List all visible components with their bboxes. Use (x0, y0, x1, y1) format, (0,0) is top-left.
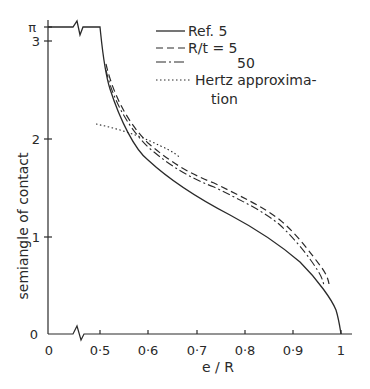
y-axis (44, 20, 52, 334)
series-hertz (96, 124, 180, 158)
series-ref5 (48, 21, 341, 334)
legend-label-ref5: Ref. 5 (188, 23, 227, 39)
x-tick-1: 1 (337, 343, 345, 358)
y-tick-pi: π (28, 20, 36, 35)
y-tick-2: 2 (32, 132, 40, 147)
y-tick-3: 3 (32, 34, 40, 49)
x-tick-labels: 0 0·5 0·6 0·7 0·8 0·9 1 (45, 343, 345, 358)
chart: π 3 2 1 0 0 0·5 0·6 0·7 0·8 0·9 1 e / R … (0, 0, 370, 389)
legend-label-hertz: Hertz approxima- (195, 72, 317, 88)
y-tick-1: 1 (32, 230, 40, 245)
x-tick-0: 0 (45, 343, 53, 358)
y-axis-title: semiangle of contact (15, 152, 31, 300)
legend-label-rt5: R/t = 5 (188, 40, 237, 56)
x-tick-0.6: 0·6 (138, 343, 159, 358)
legend-label-rt50: 50 (237, 55, 255, 71)
y-tick-0: 0 (30, 327, 38, 342)
x-tick-0.8: 0·8 (235, 343, 256, 358)
x-tick-0.7: 0·7 (187, 343, 208, 358)
legend-label-hertz-cont: tion (211, 91, 238, 107)
x-axis (48, 326, 352, 340)
legend: Ref. 5 R/t = 5 50 Hertz approxima- tion (156, 23, 317, 107)
x-tick-0.9: 0·9 (283, 343, 304, 358)
x-axis-title: e / R (202, 359, 234, 375)
x-tick-0.5: 0·5 (90, 343, 111, 358)
